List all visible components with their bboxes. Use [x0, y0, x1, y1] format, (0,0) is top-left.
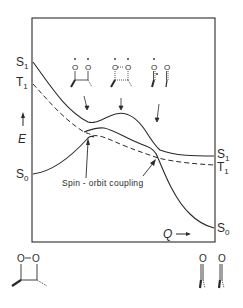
- reaction-coordinate-arrow-icon: [176, 232, 191, 236]
- svg-text:O: O: [164, 63, 170, 72]
- svg-text:O: O: [32, 253, 40, 264]
- plot-frame: [32, 18, 215, 242]
- left-s0-label: S0: [16, 167, 29, 183]
- svg-text:O: O: [85, 63, 91, 72]
- svg-text:O: O: [112, 63, 118, 72]
- spin-orbit-arrow-right-icon: [143, 159, 156, 176]
- spin-orbit-coupling-label: Spin - orbit coupling: [62, 178, 143, 188]
- svg-text:O: O: [17, 253, 25, 264]
- reactant-dioxetane-structure: O O: [12, 253, 47, 286]
- left-s1-label: S1: [16, 55, 29, 71]
- energy-diagram: S1 T1 S0 E S1 T1 S0 Q Spin - orbit coupl…: [0, 0, 243, 308]
- structure-pointer-arrows-icon: [84, 96, 159, 122]
- reaction-coordinate-label: Q: [163, 227, 172, 241]
- svg-text:O: O: [72, 63, 78, 72]
- left-t1-label: T1: [16, 75, 28, 91]
- s1-curve: [33, 62, 214, 156]
- spin-orbit-arrow-left-icon: [86, 138, 90, 178]
- svg-text:O: O: [151, 63, 157, 72]
- intermediate-structure-3: O O: [151, 58, 170, 87]
- svg-text:O: O: [199, 253, 207, 264]
- intermediate-structure-2: O O: [111, 58, 132, 87]
- energy-axis-arrow-icon: [21, 112, 25, 126]
- energy-axis-label: E: [18, 132, 27, 146]
- product-carbonyls-structure: O O: [199, 253, 226, 288]
- t1-curve: [33, 84, 214, 165]
- svg-text:O: O: [218, 253, 226, 264]
- svg-text:O: O: [125, 63, 131, 72]
- intermediate-structure-1: O O: [71, 58, 92, 87]
- right-s0-label: S0: [217, 221, 230, 237]
